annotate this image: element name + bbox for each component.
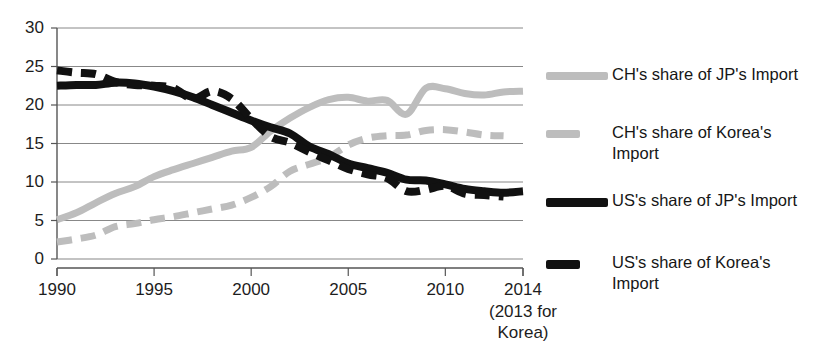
x-axis-tick-label: 1990 (12, 280, 102, 299)
y-axis-tick-label: 5 (8, 212, 44, 229)
y-axis-tick-label: 10 (8, 173, 44, 190)
axis-lines (51, 28, 523, 276)
legend-item-label: CH's share of JP's Import (612, 64, 798, 85)
plot-area: 302520151050 199019952000200520102014(20… (0, 0, 540, 338)
x-axis-note-line-1: (2013 for (468, 301, 578, 322)
x-axis-note-line-2: Korea) (468, 322, 578, 343)
x-axis-tick-label: 1995 (109, 280, 199, 299)
legend-swatch-icon (546, 64, 612, 86)
x-axis-note: (2013 forKorea) (468, 301, 578, 343)
legend-item-2[interactable]: CH's share of Korea's Import (546, 122, 771, 164)
x-axis-tick-label: 2000 (206, 280, 296, 299)
legend-swatch-icon (546, 190, 612, 212)
legend-item-label: US's share of Korea's Import (612, 252, 771, 294)
series-line-1 (57, 86, 523, 220)
legend-item-1[interactable]: CH's share of JP's Import (546, 64, 798, 86)
y-axis-tick-label: 0 (8, 250, 44, 267)
legend-swatch-icon (546, 122, 612, 144)
x-axis-tick-label: 2005 (303, 280, 393, 299)
legend-item-3[interactable]: US's share of JP's Import (546, 190, 797, 212)
legend-item-label: CH's share of Korea's Import (612, 122, 771, 164)
legend-item-4[interactable]: US's share of Korea's Import (546, 252, 771, 294)
y-axis-tick-label: 25 (8, 58, 44, 75)
series-line-3 (57, 83, 523, 193)
legend-swatch-icon (546, 252, 612, 274)
x-axis-tick-label: 2010 (400, 280, 490, 299)
series-layer (57, 70, 523, 242)
y-axis-tick-label: 20 (8, 96, 44, 113)
legend-item-label: US's share of JP's Import (612, 190, 797, 211)
y-axis-tick-label: 30 (8, 19, 44, 36)
y-axis-tick-label: 15 (8, 135, 44, 152)
